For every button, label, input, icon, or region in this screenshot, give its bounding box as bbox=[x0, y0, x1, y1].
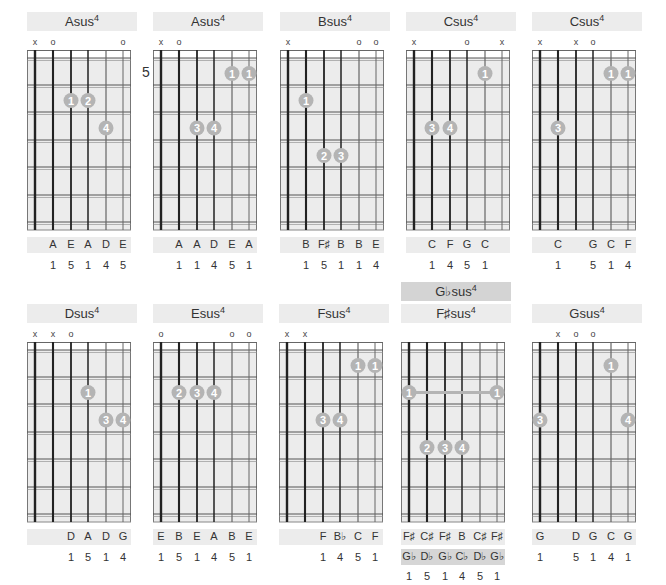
fretboard-grid: 134 bbox=[27, 342, 131, 522]
open-string-marker: o bbox=[354, 37, 364, 47]
note-name: D bbox=[98, 530, 114, 542]
scale-degree: 1 bbox=[620, 551, 636, 563]
open-string-marker: o bbox=[118, 37, 128, 47]
scale-degree: 5 bbox=[316, 259, 332, 271]
chord-root: Esus bbox=[191, 306, 220, 321]
svg-text:1: 1 bbox=[303, 95, 309, 107]
svg-text:1: 1 bbox=[608, 68, 614, 80]
svg-text:2: 2 bbox=[321, 150, 327, 162]
scale-degree: 1 bbox=[80, 259, 96, 271]
note-name: C bbox=[550, 238, 566, 250]
muted-string-marker: x bbox=[156, 37, 166, 47]
note-names-row: AEADE bbox=[27, 237, 131, 253]
svg-text:1: 1 bbox=[355, 360, 361, 372]
scale-degree: 1 bbox=[477, 259, 493, 271]
open-string-marker: o bbox=[174, 37, 184, 47]
chord-root: Fsus bbox=[317, 306, 345, 321]
note-name: G bbox=[620, 530, 636, 542]
scale-degree: 5 bbox=[568, 551, 584, 563]
chord-root: Csus bbox=[444, 14, 474, 29]
scale-degree: 1 bbox=[298, 259, 314, 271]
scale-degree: 1 bbox=[437, 570, 453, 582]
chord-superscript: 4 bbox=[94, 305, 99, 315]
note-name: C bbox=[424, 238, 440, 250]
alt-note-name: G♭ bbox=[437, 550, 453, 563]
fretboard-grid: 11234 bbox=[401, 342, 505, 522]
svg-text:4: 4 bbox=[211, 387, 218, 399]
chord-root: Asus bbox=[191, 14, 220, 29]
open-string-marker: o bbox=[588, 37, 598, 47]
scale-degree: 5 bbox=[171, 551, 187, 563]
fretboard-grid: 124 bbox=[27, 50, 131, 230]
scale-degree: 5 bbox=[472, 570, 488, 582]
note-name: E bbox=[368, 238, 384, 250]
svg-text:4: 4 bbox=[625, 414, 632, 426]
svg-text:1: 1 bbox=[406, 387, 412, 399]
note-name: D bbox=[98, 238, 114, 250]
note-name: A bbox=[171, 238, 187, 250]
fretboard-grid: 113 bbox=[532, 50, 636, 230]
scale-degree: 5 bbox=[350, 551, 366, 563]
note-name: E bbox=[241, 530, 257, 542]
svg-text:1: 1 bbox=[68, 95, 74, 107]
note-name: B bbox=[351, 238, 367, 250]
svg-text:2: 2 bbox=[424, 442, 430, 454]
chord-root: F♯sus bbox=[436, 306, 471, 321]
scale-degree: 1 bbox=[171, 259, 187, 271]
note-name: E bbox=[153, 530, 169, 542]
scale-degree: 1 bbox=[489, 570, 505, 582]
scale-degree: 1 bbox=[367, 551, 383, 563]
note-name: F♯ bbox=[489, 530, 505, 542]
scale-degree: 4 bbox=[442, 259, 458, 271]
scale-degree: 1 bbox=[550, 259, 566, 271]
scale-degree: 1 bbox=[532, 551, 548, 563]
muted-string-marker: x bbox=[30, 37, 40, 47]
chord-title: Csus4 bbox=[532, 12, 642, 31]
note-names-row: CFGC bbox=[406, 237, 510, 253]
chord-superscript: 4 bbox=[600, 305, 605, 315]
chord-superscript: 4 bbox=[346, 305, 351, 315]
note-names-row: CGCF bbox=[532, 237, 636, 253]
svg-text:4: 4 bbox=[337, 414, 344, 426]
chord-title: Asus4 bbox=[153, 12, 263, 31]
scale-degree: 1 bbox=[189, 259, 205, 271]
muted-string-marker: x bbox=[48, 329, 58, 339]
note-name: F♯ bbox=[401, 530, 417, 542]
note-name: F bbox=[367, 530, 383, 542]
note-name: F♯ bbox=[316, 238, 332, 250]
svg-text:1: 1 bbox=[625, 68, 631, 80]
muted-string-marker: x bbox=[535, 37, 545, 47]
svg-text:3: 3 bbox=[194, 122, 200, 134]
alt-note-name: C♭ bbox=[454, 550, 470, 563]
muted-string-marker: x bbox=[553, 329, 563, 339]
alt-note-name: D♭ bbox=[472, 550, 488, 563]
scale-degree: 4 bbox=[603, 551, 619, 563]
note-name: B bbox=[333, 238, 349, 250]
scale-degree: 5 bbox=[459, 259, 475, 271]
fretboard-grid: 1134 bbox=[153, 50, 257, 230]
note-name: C bbox=[603, 238, 619, 250]
note-name: G bbox=[532, 530, 548, 542]
muted-string-marker: x bbox=[300, 329, 310, 339]
open-string-marker: o bbox=[48, 37, 58, 47]
scale-degree: 1 bbox=[401, 570, 417, 582]
scale-degree: 5 bbox=[80, 551, 96, 563]
chord-superscript: 4 bbox=[471, 305, 476, 315]
scale-degree: 1 bbox=[45, 259, 61, 271]
note-name: C bbox=[350, 530, 366, 542]
note-name: G bbox=[585, 238, 601, 250]
muted-string-marker: x bbox=[30, 329, 40, 339]
note-names-row: DADG bbox=[27, 529, 131, 545]
chord-alt-root: G♭sus bbox=[435, 284, 471, 299]
note-name: B bbox=[298, 238, 314, 250]
svg-text:4: 4 bbox=[211, 122, 218, 134]
note-name: C♯ bbox=[419, 530, 435, 542]
alt-note-name: G♭ bbox=[401, 550, 417, 563]
svg-text:3: 3 bbox=[103, 414, 109, 426]
svg-text:4: 4 bbox=[447, 122, 454, 134]
alt-note-name: G♭ bbox=[489, 550, 505, 563]
note-name: D bbox=[63, 530, 79, 542]
scale-degree: 4 bbox=[454, 570, 470, 582]
muted-string-marker: x bbox=[571, 37, 581, 47]
open-string-marker: o bbox=[66, 329, 76, 339]
